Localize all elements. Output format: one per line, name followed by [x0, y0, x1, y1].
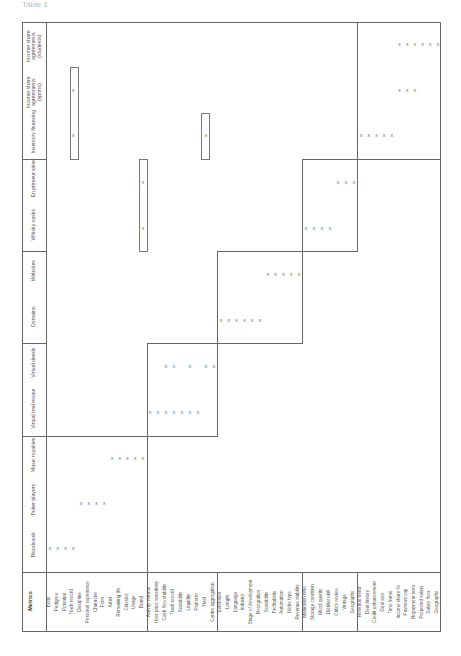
metric-label: Body	[47, 574, 53, 630]
mark-x: x	[381, 132, 387, 138]
table-caption: Table 1	[22, 0, 48, 9]
mark-x: x	[427, 41, 433, 47]
column-header-poker: Poker players	[31, 478, 36, 522]
column-header-whisky: Whisky casks	[31, 203, 36, 247]
metric-label: Vintage	[343, 574, 349, 630]
metric-label: Liquidity	[187, 574, 193, 630]
mark-x: x	[218, 317, 224, 323]
metric-label: Language	[234, 574, 240, 630]
mark-x: x	[280, 271, 286, 277]
mark-x: x	[78, 500, 84, 506]
metric-label: Yield	[203, 574, 209, 630]
metric-label: Platform	[195, 574, 201, 630]
metric-label: Discipline	[78, 574, 84, 630]
mark-x: x	[351, 179, 357, 185]
mark-x: x	[249, 317, 255, 323]
column-header-vdeeds: Virtual deeds	[31, 341, 36, 385]
metric-label: Scalability	[265, 574, 271, 630]
metric-label: Income share %	[397, 574, 403, 630]
column-header-wine: En primeur wine	[31, 157, 36, 201]
mark-x: x	[55, 545, 61, 551]
metric-label: Wood quality	[319, 574, 325, 630]
mark-x: x	[94, 500, 100, 506]
metric-label: Payment cap	[404, 574, 410, 630]
mark-x: x	[366, 132, 372, 138]
metric-label: Critics review	[335, 574, 341, 630]
mark-x: x	[335, 179, 341, 185]
mark-x: x	[203, 132, 209, 138]
metric-label: Time frame	[389, 574, 395, 630]
metric-label: Form	[101, 574, 107, 630]
mark-x: x	[70, 132, 76, 138]
group-box-2	[147, 343, 218, 437]
mark-x: x	[412, 41, 418, 47]
metric-label: Deal size	[381, 574, 387, 630]
mark-x: x	[397, 41, 403, 47]
metric-label: Niche type	[288, 574, 294, 630]
mark-x: x	[70, 87, 76, 93]
mark-x: x	[117, 455, 123, 461]
mark-x: x	[187, 409, 193, 415]
mark-x: x	[187, 363, 193, 369]
mark-x: x	[412, 87, 418, 93]
mark-x: x	[101, 500, 107, 506]
metric-label: Classics	[125, 574, 131, 630]
metric-label: Stage of development	[249, 574, 255, 630]
metric-label: Deal history	[366, 574, 372, 630]
group-box-4	[302, 159, 358, 252]
mark-x: x	[171, 363, 177, 369]
mark-x: x	[70, 545, 76, 551]
metric-label: Automation	[280, 574, 286, 630]
metric-label: Geography	[435, 574, 441, 630]
metric-label: Remaining life	[117, 574, 123, 630]
mark-x: x	[343, 179, 349, 185]
metric-label: Scalability	[179, 574, 185, 630]
column-header-isa_sports: Income share agreements (sports)	[26, 70, 42, 114]
metric-label: Activity volume	[147, 574, 153, 630]
metric-label: Credit enhancement	[373, 574, 379, 630]
metric-label: Potential	[63, 574, 69, 630]
metric-label: Profitability	[273, 574, 279, 630]
mark-x: x	[288, 271, 294, 277]
mark-x: x	[420, 41, 426, 47]
mark-x: x	[179, 409, 185, 415]
metric-label: Repayment term	[412, 574, 418, 630]
metric-label: Track record	[70, 574, 76, 630]
metric-label: Industry	[241, 574, 247, 630]
mark-x: x	[311, 225, 317, 231]
mark-x: x	[163, 363, 169, 369]
mark-x: x	[163, 409, 169, 415]
mark-x: x	[296, 271, 302, 277]
mark-x: x	[327, 225, 333, 231]
metric-label: Personal experience	[86, 574, 92, 630]
mark-x: x	[63, 545, 69, 551]
metrics-header: Metrics	[28, 586, 36, 616]
column-header-websites: Websites	[31, 249, 36, 293]
column-header-inventory: Inventory financing	[31, 110, 36, 154]
column-header-music: Music royalties	[31, 433, 36, 477]
highlight-box-track-record	[70, 67, 79, 160]
highlight-box-brand	[139, 159, 148, 252]
mark-x: x	[373, 132, 379, 138]
mark-x: x	[404, 41, 410, 47]
mark-x: x	[273, 271, 279, 277]
mark-x: x	[234, 317, 240, 323]
metric-label: User price sensitivity	[155, 574, 161, 630]
metric-label: Cash flow stability	[163, 574, 169, 630]
metric-label: Length	[226, 574, 232, 630]
mark-x: x	[155, 409, 161, 415]
metric-label: Extension	[218, 574, 224, 630]
mark-x: x	[86, 500, 92, 506]
mark-x: x	[171, 409, 177, 415]
mark-x: x	[404, 87, 410, 93]
mark-x: x	[389, 132, 395, 138]
mark-x: x	[257, 317, 263, 323]
mark-x: x	[358, 132, 364, 138]
mark-x: x	[140, 225, 146, 231]
mark-x: x	[140, 179, 146, 185]
metric-label: Storage condition	[311, 574, 317, 630]
mark-x: x	[226, 317, 232, 323]
group-box-3	[217, 251, 303, 344]
metric-label: Revenue trend	[358, 574, 364, 630]
metric-label: Maturation time	[303, 574, 309, 630]
